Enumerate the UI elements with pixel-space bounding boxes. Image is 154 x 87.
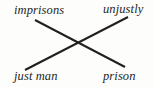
connector-imprisons-to-prison: [35, 20, 125, 67]
term-bottom-right-prison: prison: [103, 70, 136, 83]
connector-just-man-to-unjustly: [25, 17, 128, 70]
term-bottom-left-just-man: just man: [14, 70, 58, 83]
chiasmus-diagram: imprisons unjustly just man prison: [0, 0, 154, 87]
term-top-left-imprisons: imprisons: [14, 4, 64, 17]
term-top-right-unjustly: unjustly: [103, 3, 143, 16]
